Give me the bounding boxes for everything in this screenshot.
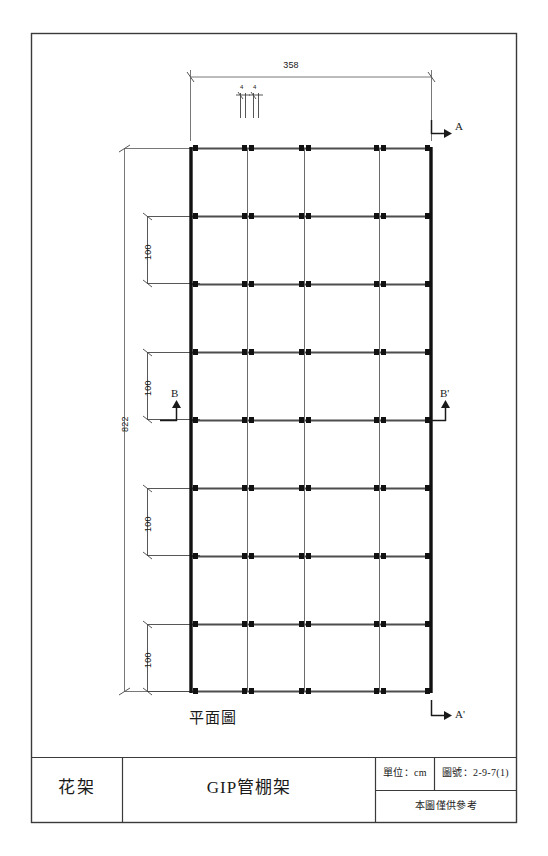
title-block-category: 花架 <box>32 779 122 796</box>
dimension-label-left-bay-1: 100 <box>144 244 153 260</box>
title-block-note: 本圖僅供參考 <box>376 801 516 811</box>
title-block-unit: 單位：cm <box>376 768 434 778</box>
sheet-border <box>32 34 517 823</box>
section-label-a-prime: A' <box>455 709 465 720</box>
dimension-label-left-bay-4: 100 <box>144 652 153 668</box>
dimension-label-top-overall: 358 <box>271 61 311 70</box>
technical-drawing-canvas <box>0 0 548 856</box>
top-dimension-358 <box>187 70 435 141</box>
dimension-label-left-bay-2: 100 <box>144 380 153 396</box>
title-block-title: GIP管棚架 <box>123 779 375 796</box>
section-label-b-prime: B' <box>440 388 449 399</box>
plan-view-title: 平面圖 <box>189 711 237 726</box>
section-marker-a-leader <box>431 120 452 138</box>
title-block-drawing-number: 圖號：2-9-7(1) <box>435 768 516 778</box>
drawing-sheet: 358 4 4 822 100 100 100 100 A A' B B' 平面… <box>0 0 548 856</box>
section-label-b: B <box>171 388 178 399</box>
dimension-label-left-bay-3: 100 <box>144 516 153 532</box>
top-small-dimension-marks <box>236 92 263 118</box>
section-marker-b-leader <box>160 400 181 421</box>
section-marker-a-prime-leader <box>431 700 452 720</box>
dimension-label-left-overall: 822 <box>121 416 130 432</box>
section-label-a: A <box>455 121 463 132</box>
dimension-label-top-small-left: 4 <box>240 84 243 90</box>
dimension-label-top-small-right: 4 <box>253 84 256 90</box>
